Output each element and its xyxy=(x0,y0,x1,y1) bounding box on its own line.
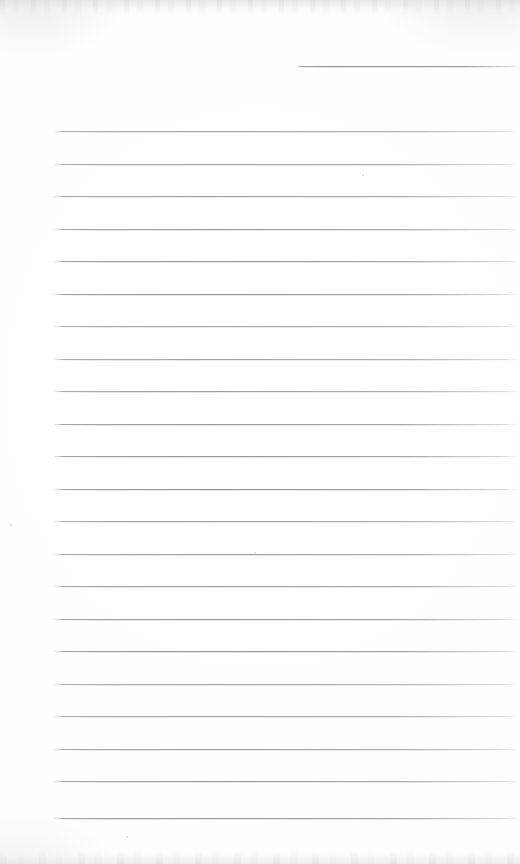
rule-line xyxy=(54,131,516,132)
scan-edge-bottom xyxy=(0,850,520,864)
rule-line xyxy=(54,196,516,197)
scanned-page xyxy=(0,0,520,864)
rule-line-partial-top xyxy=(297,66,517,67)
paper-background xyxy=(0,0,520,864)
rule-line xyxy=(54,619,516,620)
rule-line xyxy=(54,651,516,652)
rule-line xyxy=(54,229,516,230)
rule-line xyxy=(54,489,516,490)
rule-line xyxy=(54,294,516,295)
rule-line xyxy=(54,521,516,522)
rule-line xyxy=(54,424,516,425)
rule-line xyxy=(54,164,516,165)
rule-line xyxy=(54,781,516,782)
rule-line xyxy=(54,716,516,717)
scan-speck xyxy=(362,174,364,176)
scan-speck xyxy=(126,836,128,838)
rule-line xyxy=(54,456,516,457)
rule-line xyxy=(54,391,516,392)
rule-line xyxy=(54,586,516,587)
scan-speck xyxy=(10,524,12,526)
rule-line xyxy=(54,684,516,685)
rule-line xyxy=(54,554,516,555)
scan-edge-top xyxy=(0,0,520,16)
rule-line xyxy=(54,261,516,262)
rule-line xyxy=(54,326,516,327)
rule-line xyxy=(54,749,516,750)
rule-line xyxy=(54,359,516,360)
rule-line xyxy=(54,818,516,819)
